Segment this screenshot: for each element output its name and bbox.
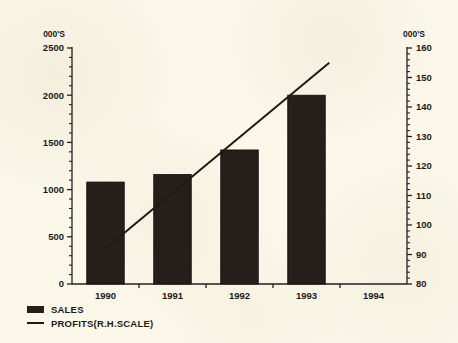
left-value-axis: 05001000150020002500000'S <box>43 29 72 289</box>
left-axis-tick-500: 500 <box>48 231 64 242</box>
right-axis-tick-100: 100 <box>416 219 432 230</box>
left-axis-tick-2500: 2500 <box>43 42 64 53</box>
legend-label-profits: PROFITS(R.H.SCALE) <box>51 318 153 329</box>
x-axis-tick-1994: 1994 <box>363 290 385 301</box>
x-axis-tick-1992: 1992 <box>229 290 250 301</box>
bar-series-sales <box>87 95 326 284</box>
right-axis-tick-110: 110 <box>416 190 431 201</box>
dual-axis-bar-line-chart: 05001000150020002500000'S 80901001101201… <box>0 0 458 343</box>
left-axis-tick-1500: 1500 <box>43 137 64 148</box>
chart-legend: SALESPROFITS(R.H.SCALE) <box>27 304 153 329</box>
bar-1993 <box>288 95 326 284</box>
x-axis-tick-1990: 1990 <box>95 290 116 301</box>
right-axis-tick-130: 130 <box>416 131 432 142</box>
left-axis-tick-1000: 1000 <box>43 184 64 195</box>
chart-container: 05001000150020002500000'S 80901001101201… <box>0 0 458 343</box>
right-axis-tick-150: 150 <box>416 72 432 83</box>
x-axis-tick-1993: 1993 <box>296 290 317 301</box>
category-tick-labels: 19901991199219931994 <box>95 290 385 301</box>
right-axis-tick-90: 90 <box>416 249 427 260</box>
x-axis-tick-1991: 1991 <box>162 290 184 301</box>
left-axis-unit: 000'S <box>43 29 65 39</box>
right-axis-tick-140: 140 <box>416 101 432 112</box>
right-axis-tick-80: 80 <box>416 278 427 289</box>
legend-label-sales: SALES <box>51 304 84 315</box>
left-axis-tick-0: 0 <box>59 278 64 289</box>
bar-1990 <box>87 182 125 284</box>
right-axis-tick-120: 120 <box>416 160 432 171</box>
left-axis-tick-2000: 2000 <box>43 90 64 101</box>
bar-1991 <box>154 174 192 284</box>
right-value-axis: 8090100110120130140150160000'S <box>403 29 432 289</box>
bar-1992 <box>221 150 259 284</box>
category-axis <box>72 284 407 288</box>
right-axis-unit: 000'S <box>403 29 425 39</box>
legend-swatch-sales-icon <box>27 306 44 313</box>
right-axis-tick-160: 160 <box>416 42 432 53</box>
